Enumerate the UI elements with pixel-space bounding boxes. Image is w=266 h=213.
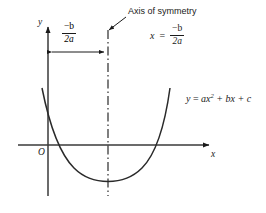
parabola-equation-lhs: y (186, 93, 190, 104)
parabola-equation-term1-exponent: 2 (211, 92, 214, 99)
parabola-equation-term3: + c (238, 93, 252, 104)
measure-fraction: −b 2a (62, 22, 76, 45)
symmetry-equation-denominator: 2a (170, 36, 184, 46)
axis-of-symmetry-pointer-icon (109, 17, 126, 30)
measure-label: −b 2a (62, 22, 76, 45)
x-axis-label: x (211, 150, 215, 160)
origin-label: O (38, 148, 45, 158)
parabola-equation-term2: + bx (216, 93, 235, 104)
y-axis-label: y (38, 18, 42, 28)
symmetry-equation-fraction: −b 2a (170, 24, 184, 47)
measure-denominator: 2a (62, 34, 76, 44)
measure-numerator: −b (62, 22, 76, 32)
parabola-equation-operator: = (193, 93, 199, 104)
symmetry-equation-numerator: −b (170, 24, 184, 34)
parabola-curve (42, 88, 170, 182)
symmetry-equation-operator: = (159, 30, 165, 41)
axis-of-symmetry-label: Axis of symmetry (128, 7, 197, 16)
parabola-equation: y = ax2 + bx + c (186, 92, 251, 104)
diagram-canvas (0, 0, 266, 213)
parabola-diagram: y x O Axis of symmetry x = −b 2a −b 2a y… (0, 0, 266, 213)
symmetry-equation-variable: x (150, 30, 154, 41)
symmetry-equation: x = −b 2a (150, 24, 184, 47)
